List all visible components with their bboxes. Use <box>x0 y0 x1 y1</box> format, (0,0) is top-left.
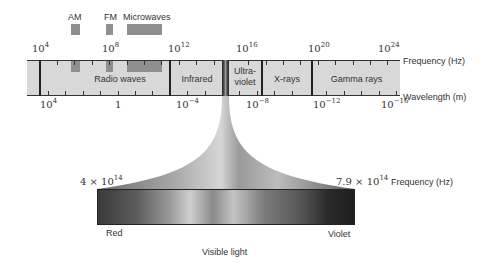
visible-frequency-label: Frequency (Hz) <box>391 177 453 187</box>
visible-light-caption: Visible light <box>202 247 247 257</box>
visible-spectrum-bar <box>97 189 355 225</box>
visible-expansion-funnel <box>0 0 481 270</box>
visible-low-frequency: 4 × 1014 <box>80 176 123 187</box>
red-label: Red <box>106 228 123 238</box>
violet-label: Violet <box>328 229 350 239</box>
visible-high-frequency: 7.9 × 1014 <box>336 176 388 187</box>
